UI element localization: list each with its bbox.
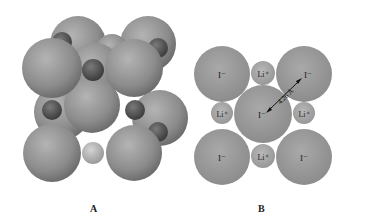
iodide-label: I⁻	[300, 153, 308, 163]
lithium-label: Li⁺	[216, 110, 227, 119]
lithium-label: Li⁺	[298, 110, 309, 119]
panel-b-cross-section: I⁻ I⁻ I⁻ I⁻ I⁻ Li⁺ Li⁺ Li⁺ Li⁺ 4.26 Å	[194, 46, 332, 185]
iodide-label: I⁻	[258, 110, 266, 120]
iodide-label: I⁻	[218, 153, 226, 163]
lithium-iodide-lattice-figure: I⁻ I⁻ I⁻ I⁻ I⁻ Li⁺ Li⁺ Li⁺ Li⁺ 4.26 Å A …	[0, 0, 366, 224]
iodide-label: I⁻	[304, 70, 312, 80]
panel-a-model	[22, 16, 188, 182]
lithium-label: Li⁺	[257, 153, 268, 162]
panel-a-label: A	[90, 203, 97, 214]
figure-canvas: I⁻ I⁻ I⁻ I⁻ I⁻ Li⁺ Li⁺ Li⁺ Li⁺ 4.26 Å	[0, 0, 366, 224]
lithium-label: Li⁺	[257, 70, 268, 79]
panel-b-label: B	[258, 203, 265, 214]
iodide-label: I⁻	[218, 70, 226, 80]
